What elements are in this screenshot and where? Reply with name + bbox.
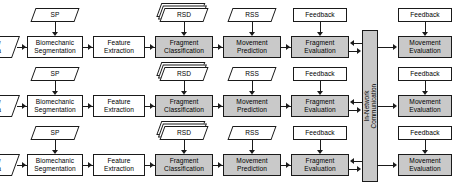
node-label: Biomechanic Segmentation bbox=[34, 39, 75, 55]
node-label: Biomechanic Segmentation bbox=[34, 157, 75, 173]
data-symbol-label: RSD bbox=[162, 126, 206, 140]
node-fragment-classification-row-2[interactable]: Fragment Classification bbox=[155, 95, 213, 117]
node-fragment-classification-row-1[interactable]: Fragment Classification bbox=[155, 36, 213, 58]
data-symbol-label: SP bbox=[33, 67, 77, 81]
feedback-movement-row-2[interactable]: Feedback bbox=[398, 67, 452, 81]
node-movement-evaluation-row-3[interactable]: Movement Evaluation bbox=[398, 154, 452, 176]
feedback-fragment-row-2[interactable]: Feedback bbox=[293, 67, 347, 81]
node-label: Movement Prediction bbox=[236, 157, 267, 173]
node-movement-prediction-row-1[interactable]: Movement Prediction bbox=[223, 36, 281, 58]
feedback-fragment-row-1[interactable]: Feedback bbox=[293, 8, 347, 22]
arrowhead-fragment-evaluation-to-hub-row-1 bbox=[357, 48, 361, 54]
arrowhead-raw-to-seg-row-1 bbox=[22, 44, 26, 50]
arrowhead-seg-to-feat-row-3 bbox=[88, 162, 92, 168]
node-label: Fragment Classification bbox=[164, 98, 204, 114]
node-feature-extraction-row-2[interactable]: Feature Extraction bbox=[93, 95, 145, 117]
node-biomechanic-segmentation-row-2[interactable]: Biomechanic Segmentation bbox=[27, 95, 83, 117]
node-movement-evaluation-row-1[interactable]: Movement Evaluation bbox=[398, 36, 452, 58]
node-raw-data-row-2[interactable]: Raw Data bbox=[0, 95, 16, 117]
node-label: Feature Extraction bbox=[104, 39, 134, 55]
node-label: Movement Evaluation bbox=[409, 98, 440, 114]
feedback-label: Feedback bbox=[305, 11, 335, 19]
data-symbol-sp-row-3: SP bbox=[33, 126, 77, 140]
node-movement-prediction-row-3[interactable]: Movement Prediction bbox=[223, 154, 281, 176]
link-hub-to-movement-evaluation-row-2 bbox=[378, 106, 393, 107]
node-biomechanic-segmentation-row-3[interactable]: Biomechanic Segmentation bbox=[27, 154, 83, 176]
data-symbol-rss-row-2: RSS bbox=[230, 67, 274, 81]
data-symbol-rsd-row-2: RSD bbox=[162, 67, 206, 81]
link-hub-to-fragment-evaluation-row-3 bbox=[354, 161, 362, 162]
in-network-communication-label: In-Network Communication bbox=[363, 84, 378, 128]
feedback-label: Feedback bbox=[305, 129, 335, 137]
node-label: Feature Extraction bbox=[104, 98, 134, 114]
link-hub-to-movement-evaluation-row-3 bbox=[378, 165, 393, 166]
data-symbol-label: RSD bbox=[162, 67, 206, 81]
arrowhead-pred-to-eval-row-1 bbox=[286, 44, 290, 50]
node-fragment-classification-row-3[interactable]: Fragment Classification bbox=[155, 154, 213, 176]
node-label: Raw Data bbox=[0, 95, 16, 117]
arrowhead-frag-to-pred-row-3 bbox=[218, 162, 222, 168]
node-feature-extraction-row-1[interactable]: Feature Extraction bbox=[93, 36, 145, 58]
data-symbol-label: RSS bbox=[230, 67, 274, 81]
feedback-label: Feedback bbox=[410, 11, 440, 19]
arrowhead-hub-to-fragment-evaluation-row-2 bbox=[350, 99, 354, 105]
data-symbol-label: SP bbox=[33, 126, 77, 140]
node-feature-extraction-row-3[interactable]: Feature Extraction bbox=[93, 154, 145, 176]
arrowhead-pred-to-eval-row-3 bbox=[286, 162, 290, 168]
feedback-label: Feedback bbox=[410, 129, 440, 137]
data-symbol-label: RSS bbox=[230, 126, 274, 140]
arrowhead-frag-to-pred-row-2 bbox=[218, 103, 222, 109]
node-fragment-evaluation-row-3[interactable]: Fragment Evaluation bbox=[291, 154, 349, 176]
node-fragment-evaluation-row-1[interactable]: Fragment Evaluation bbox=[291, 36, 349, 58]
data-symbol-label: RSD bbox=[162, 8, 206, 22]
data-symbol-rsd-row-1: RSD bbox=[162, 8, 206, 22]
node-fragment-evaluation-row-2[interactable]: Fragment Evaluation bbox=[291, 95, 349, 117]
arrowhead-frag-to-pred-row-1 bbox=[218, 44, 222, 50]
node-label: Feature Extraction bbox=[104, 157, 134, 173]
feedback-label: Feedback bbox=[410, 70, 440, 78]
node-label: Fragment Classification bbox=[164, 157, 204, 173]
node-raw-data-row-3[interactable]: Raw Data bbox=[0, 154, 16, 176]
arrowhead-fragment-evaluation-to-hub-row-3 bbox=[357, 166, 361, 172]
node-label: Movement Prediction bbox=[236, 98, 267, 114]
node-movement-prediction-row-2[interactable]: Movement Prediction bbox=[223, 95, 281, 117]
data-symbol-rss-row-3: RSS bbox=[230, 126, 274, 140]
arrowhead-seg-to-feat-row-1 bbox=[88, 44, 92, 50]
arrowhead-raw-to-seg-row-3 bbox=[22, 162, 26, 168]
data-symbol-label: RSS bbox=[230, 8, 274, 22]
link-hub-to-movement-evaluation-row-1 bbox=[378, 47, 393, 48]
node-label: Fragment Classification bbox=[164, 39, 204, 55]
node-movement-evaluation-row-2[interactable]: Movement Evaluation bbox=[398, 95, 452, 117]
node-label: Movement Evaluation bbox=[409, 39, 440, 55]
feedback-movement-row-1[interactable]: Feedback bbox=[398, 8, 452, 22]
node-label: Fragment Evaluation bbox=[304, 39, 335, 55]
data-symbol-label: SP bbox=[33, 8, 77, 22]
arrowhead-feat-to-frag-row-3 bbox=[150, 162, 154, 168]
link-hub-to-fragment-evaluation-row-2 bbox=[354, 102, 362, 103]
arrowhead-hub-to-movement-evaluation-row-1 bbox=[393, 44, 397, 50]
node-label: Movement Prediction bbox=[236, 39, 267, 55]
node-raw-data-row-1[interactable]: Raw Data bbox=[0, 36, 16, 58]
node-label: Biomechanic Segmentation bbox=[34, 98, 75, 114]
arrowhead-hub-to-movement-evaluation-row-2 bbox=[393, 103, 397, 109]
feedback-movement-row-3[interactable]: Feedback bbox=[398, 126, 452, 140]
arrowhead-fragment-evaluation-to-hub-row-2 bbox=[357, 107, 361, 113]
node-biomechanic-segmentation-row-1[interactable]: Biomechanic Segmentation bbox=[27, 36, 83, 58]
node-label: Raw Data bbox=[0, 36, 16, 58]
node-label: Raw Data bbox=[0, 154, 16, 176]
data-symbol-sp-row-2: SP bbox=[33, 67, 77, 81]
arrowhead-pred-to-eval-row-2 bbox=[286, 103, 290, 109]
in-network-communication-bar[interactable]: In-Network Communication bbox=[362, 30, 378, 182]
data-symbol-rss-row-1: RSS bbox=[230, 8, 274, 22]
node-label: Movement Evaluation bbox=[409, 157, 440, 173]
arrowhead-hub-to-fragment-evaluation-row-3 bbox=[350, 158, 354, 164]
feedback-label: Feedback bbox=[305, 70, 335, 78]
arrowhead-hub-to-movement-evaluation-row-3 bbox=[393, 162, 397, 168]
feedback-fragment-row-3[interactable]: Feedback bbox=[293, 126, 347, 140]
data-symbol-sp-row-1: SP bbox=[33, 8, 77, 22]
node-label: Fragment Evaluation bbox=[304, 157, 335, 173]
diagram-canvas: SP RSD RSS Feedback Feedback Raw Data Bi… bbox=[0, 0, 464, 194]
arrowhead-raw-to-seg-row-2 bbox=[22, 103, 26, 109]
data-symbol-rsd-row-3: RSD bbox=[162, 126, 206, 140]
node-label: Fragment Evaluation bbox=[304, 98, 335, 114]
